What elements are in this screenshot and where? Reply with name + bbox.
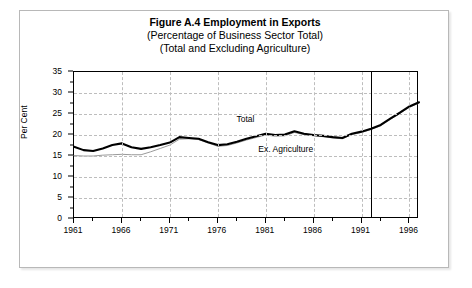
x-tick-label: 1991 <box>351 225 370 235</box>
x-tick-label: 1961 <box>64 225 83 235</box>
gridline-vertical <box>314 72 315 217</box>
series-line-total <box>74 102 419 151</box>
y-tick-label: 25 <box>53 108 62 118</box>
x-tick-label: 1966 <box>111 225 130 235</box>
y-tick-label: 35 <box>53 66 62 76</box>
y-tick-label: 10 <box>53 171 62 181</box>
x-tick-major <box>73 218 74 223</box>
x-tick-label: 1981 <box>255 225 274 235</box>
series-annotation-total: Total <box>237 114 255 124</box>
x-tick-label: 1971 <box>159 225 178 235</box>
x-tick-minor <box>92 218 93 221</box>
x-tick-major <box>408 218 409 223</box>
x-tick-label: 1996 <box>399 225 418 235</box>
gridline-vertical <box>218 72 219 217</box>
gridline-horizontal <box>74 135 417 136</box>
y-axis-title: Per Cent <box>19 105 29 139</box>
y-tick-label: 0 <box>57 213 62 223</box>
y-tick-label: 20 <box>53 129 62 139</box>
gridline-horizontal <box>74 93 417 94</box>
x-tick-major <box>361 218 362 223</box>
series-annotation-ex-agriculture: Ex. Agriculture <box>258 144 313 154</box>
figure-title-line2: (Percentage of Business Sector Total) <box>20 29 450 42</box>
gridline-vertical <box>122 72 123 217</box>
x-tick-minor <box>236 218 237 221</box>
y-axis: 05101520253035 <box>20 71 70 218</box>
x-tick-major <box>169 218 170 223</box>
x-tick-major <box>217 218 218 223</box>
gridline-horizontal <box>74 198 417 199</box>
plot-area <box>73 71 418 218</box>
x-tick-minor <box>140 218 141 221</box>
figure-root: Figure A.4 Employment in Exports (Percen… <box>0 0 472 288</box>
figure-title-line3: (Total and Excluding Agriculture) <box>20 42 450 55</box>
x-tick-major <box>265 218 266 223</box>
x-tick-label: 1976 <box>207 225 226 235</box>
figure-panel: Figure A.4 Employment in Exports (Percen… <box>19 10 449 268</box>
x-tick-major <box>121 218 122 223</box>
gridline-vertical <box>409 72 410 217</box>
title-block: Figure A.4 Employment in Exports (Percen… <box>20 16 450 55</box>
gridline-horizontal <box>74 156 417 157</box>
vertical-reference-line <box>371 72 372 217</box>
x-tick-minor <box>284 218 285 221</box>
figure-title-line1: Figure A.4 Employment in Exports <box>20 16 450 29</box>
y-tick-label: 15 <box>53 150 62 160</box>
series-layer <box>74 72 419 219</box>
x-tick-label: 1986 <box>303 225 322 235</box>
y-tick-label: 5 <box>57 192 62 202</box>
gridline-vertical <box>362 72 363 217</box>
gridline-horizontal <box>74 177 417 178</box>
x-tick-major <box>313 218 314 223</box>
x-tick-minor <box>332 218 333 221</box>
gridline-vertical <box>170 72 171 217</box>
x-tick-minor <box>188 218 189 221</box>
y-tick-label: 30 <box>53 87 62 97</box>
x-tick-minor <box>380 218 381 221</box>
